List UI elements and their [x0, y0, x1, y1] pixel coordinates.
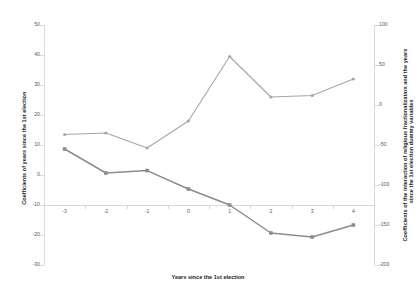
data-point-square [145, 169, 149, 173]
series-canvas [44, 25, 374, 265]
right-axis-tick-mark [375, 25, 379, 26]
data-point-circle [146, 146, 149, 149]
right-axis-tick-mark [375, 225, 379, 226]
chart-container: 50403020100-10-20-30 100500-50-100-150-2… [0, 0, 416, 296]
left-axis-tick-label: -20 [33, 232, 41, 237]
data-point-circle [63, 133, 66, 136]
right-axis-tick-mark [375, 65, 379, 66]
left-axis-tick-mark [40, 265, 44, 266]
right-axis-tick-mark [375, 105, 379, 106]
right-axis-tick-mark [375, 265, 379, 266]
right-axis-tick-label: 100 [379, 22, 388, 27]
right-axis-tick-label: -50 [379, 142, 387, 147]
plot-area [44, 25, 374, 265]
right-axis-tick-label: -200 [379, 262, 389, 267]
right-axis-tick-mark [375, 185, 379, 186]
data-point-circle [352, 77, 355, 80]
data-point-square [187, 187, 191, 191]
data-point-circle [269, 95, 272, 98]
y-axis-title-left: Coefficients of years since the 1st elec… [21, 68, 27, 228]
right-axis-tick-label: 0 [379, 102, 382, 107]
right-axis-tick-label: -100 [379, 182, 389, 187]
data-point-circle [228, 55, 231, 58]
data-point-square [104, 171, 108, 175]
data-point-square [63, 147, 67, 151]
data-point-circle [311, 94, 314, 97]
left-axis-tick-label: -30 [33, 262, 41, 267]
data-point-square [228, 203, 232, 207]
series-line [65, 149, 354, 237]
right-axis-tick-label: -150 [379, 222, 389, 227]
data-point-circle [187, 119, 190, 122]
data-point-square [269, 231, 273, 235]
data-point-square [310, 235, 314, 239]
right-axis-tick-label: 50 [379, 62, 385, 67]
x-axis-title: Years since the 1st election [0, 274, 416, 280]
left-axis-tick-label: -10 [33, 202, 41, 207]
right-axis-tick-mark [375, 145, 379, 146]
y-axis-title-right: Coefficients of the interaction of relig… [402, 61, 415, 241]
data-point-circle [104, 131, 107, 134]
data-point-square [352, 223, 356, 227]
series-line [65, 57, 354, 149]
